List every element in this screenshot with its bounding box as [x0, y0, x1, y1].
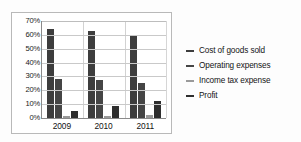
x-axis-tick-label: 2010	[83, 121, 125, 131]
legend-item-label: Income tax expense	[199, 76, 270, 85]
legend-item[interactable]: Cost of goods sold	[186, 43, 298, 58]
y-axis-tick-label: 20%	[25, 86, 40, 94]
legend-item-label: Operating expenses	[199, 61, 270, 70]
y-axis-tick-label: 70%	[25, 17, 40, 25]
gridline	[42, 76, 167, 77]
bar	[63, 116, 70, 118]
y-axis-tick-label: 60%	[25, 31, 40, 39]
gridline	[42, 90, 167, 91]
gridline	[42, 35, 167, 36]
chart-frame: 70%60%50%40%30%20%10%0% 200920102011	[11, 12, 172, 134]
y-axis-tick-label: 40%	[25, 59, 40, 67]
chart-page: 70%60%50%40%30%20%10%0% 200920102011 Cos…	[0, 0, 301, 142]
bar	[55, 79, 62, 118]
legend-dash-icon	[186, 50, 194, 52]
x-axis-labels: 200920102011	[41, 121, 166, 131]
legend-item[interactable]: Profit	[186, 88, 298, 103]
legend-item[interactable]: Operating expenses	[186, 58, 298, 73]
x-axis-tick-label: 2011	[124, 121, 166, 131]
legend-item[interactable]: Income tax expense	[186, 73, 298, 88]
y-axis-tick-label: 50%	[25, 45, 40, 53]
legend-dash-icon	[186, 95, 194, 97]
y-axis-tick-label: 30%	[25, 72, 40, 80]
bar	[146, 115, 153, 118]
legend-dash-icon	[186, 65, 194, 67]
legend-item-label: Profit	[199, 91, 218, 100]
x-axis-tick-label: 2009	[41, 121, 83, 131]
gridline	[42, 49, 167, 50]
bar	[71, 111, 78, 118]
gridline	[42, 104, 167, 105]
plot-wrapper: 70%60%50%40%30%20%10%0% 200920102011	[12, 13, 171, 133]
legend-item-label: Cost of goods sold	[199, 46, 265, 55]
legend-dash-icon	[186, 80, 194, 82]
gridline	[42, 63, 167, 64]
chart-legend: Cost of goods soldOperating expensesInco…	[186, 43, 298, 103]
bar	[104, 116, 111, 118]
y-axis-labels: 70%60%50%40%30%20%10%0%	[13, 17, 40, 121]
y-axis-tick-label: 10%	[25, 100, 40, 108]
y-axis-tick-label: 0%	[29, 114, 40, 122]
plot-area	[41, 21, 166, 119]
bar	[112, 106, 119, 118]
bar	[96, 80, 103, 118]
gridline	[42, 21, 167, 22]
bar	[138, 83, 145, 118]
